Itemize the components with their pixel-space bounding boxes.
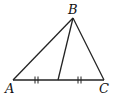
label-b: B (67, 2, 78, 17)
triangle-diagram: A B C (0, 0, 117, 96)
label-c: C (99, 81, 109, 96)
side-bc (73, 18, 104, 80)
label-a: A (4, 81, 14, 96)
median-bm (58, 18, 73, 80)
side-ab (13, 18, 73, 80)
